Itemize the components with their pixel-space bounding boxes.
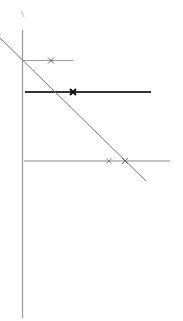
cross-markers: [48, 58, 128, 165]
horizontal-lines: [22, 61, 170, 162]
top-tick-mark: [21, 11, 24, 17]
line-intersection-diagram: [0, 0, 183, 321]
